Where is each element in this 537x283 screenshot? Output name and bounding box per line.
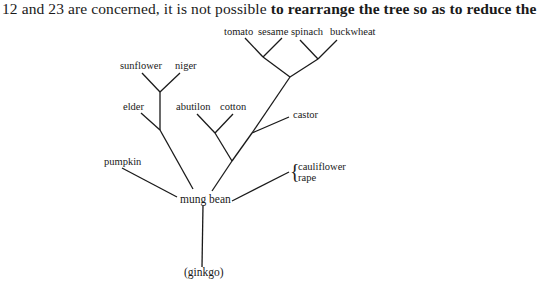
root-label-mung-bean: mung bean bbox=[180, 193, 231, 206]
leaf-label-elder: elder bbox=[123, 101, 144, 112]
edge-buckwheat bbox=[318, 40, 337, 59]
edge-elder bbox=[141, 113, 160, 130]
edge-cotton bbox=[215, 114, 233, 133]
leaf-label-sunflower: sunflower bbox=[120, 60, 162, 71]
edge-sesame bbox=[263, 38, 282, 57]
edge-pumpkin bbox=[122, 168, 177, 197]
edge-sunflower bbox=[142, 73, 160, 92]
edge-abutilon-cotton-stem bbox=[215, 133, 232, 161]
leaf-label-rape: rape bbox=[298, 172, 316, 183]
edge-ginkgo bbox=[202, 205, 203, 267]
leaf-label-castor: castor bbox=[293, 109, 319, 120]
outgroup-label-ginkgo: (ginkgo) bbox=[184, 266, 224, 279]
leaf-label-buckwheat: buckwheat bbox=[330, 26, 376, 37]
edge-castor-node-stem bbox=[232, 133, 252, 161]
edge-spinach-buckwheat-node bbox=[290, 59, 318, 77]
edge-left-clade-stem bbox=[160, 130, 193, 189]
edge-niger bbox=[160, 73, 180, 92]
edge-right-clade-stem bbox=[212, 161, 232, 191]
leaf-label-tomato: tomato bbox=[224, 26, 253, 37]
leaf-label-abutilon: abutilon bbox=[176, 101, 211, 112]
edge-spinach bbox=[300, 40, 318, 59]
leaf-label-spinach: spinach bbox=[291, 26, 324, 37]
leaf-label-cotton: cotton bbox=[220, 101, 247, 112]
leaf-label-cauliflower: cauliflower bbox=[298, 161, 346, 172]
leaf-label-sesame: sesame bbox=[258, 26, 289, 37]
leaf-label-niger: niger bbox=[175, 60, 197, 71]
edge-tomato bbox=[245, 38, 263, 57]
edge-abutilon bbox=[197, 114, 215, 133]
leaf-label-pumpkin: pumpkin bbox=[104, 156, 142, 167]
edge-tomato-sesame-node bbox=[263, 57, 290, 77]
edge-cauliflower-rape bbox=[232, 172, 289, 201]
